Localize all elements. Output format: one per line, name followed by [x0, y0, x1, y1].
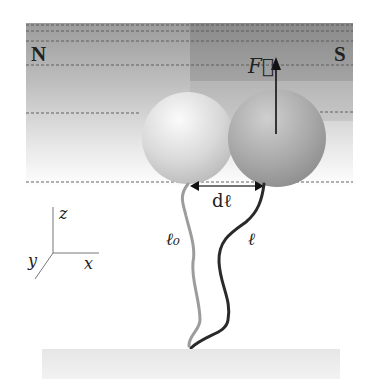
south-pole-label: S — [334, 44, 346, 65]
bead-displaced — [228, 89, 326, 187]
tether-initial — [182, 184, 200, 346]
x-axis-label: x — [84, 256, 93, 272]
tether-initial-label: ℓ₀ — [166, 231, 180, 248]
magnetic-tweezers-diagram — [0, 0, 366, 388]
surface — [42, 349, 340, 379]
displacement-label: dℓ — [212, 192, 232, 210]
bead-initial — [142, 92, 234, 184]
y-axis-label: y — [28, 253, 37, 269]
north-pole-label: N — [31, 44, 46, 65]
tether-stretched-label: ℓ — [248, 231, 255, 248]
force-label: F⃗ — [248, 56, 274, 76]
z-axis-label: z — [59, 206, 67, 222]
